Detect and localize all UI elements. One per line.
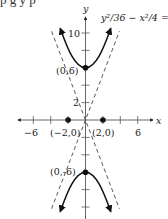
hyperbola-graph: y x y²/36 − x²/4 = 1 10 2 −6 6 (0,6) (0,… bbox=[0, 0, 168, 219]
point-right bbox=[100, 117, 106, 123]
point-left-label: (−2,0) bbox=[50, 127, 80, 138]
vertex-bottom-label: (0,-6) bbox=[50, 166, 76, 177]
vertex-bottom-point bbox=[83, 169, 89, 175]
tick-label-y-2: 2 bbox=[73, 97, 79, 108]
equation-label: y²/36 − x²/4 = 1 bbox=[100, 12, 168, 23]
tick-label-x-6: 6 bbox=[135, 127, 141, 138]
point-left bbox=[65, 117, 71, 123]
tick-label-y-10: 10 bbox=[68, 28, 80, 39]
x-axis-label: x bbox=[156, 115, 162, 126]
y-axis-label: y bbox=[82, 3, 89, 14]
tick-label-x-neg6: −6 bbox=[24, 127, 38, 138]
point-right-label: (2,0) bbox=[92, 127, 115, 138]
vertex-top-label: (0,6) bbox=[56, 65, 79, 76]
vertex-top-point bbox=[83, 65, 89, 71]
